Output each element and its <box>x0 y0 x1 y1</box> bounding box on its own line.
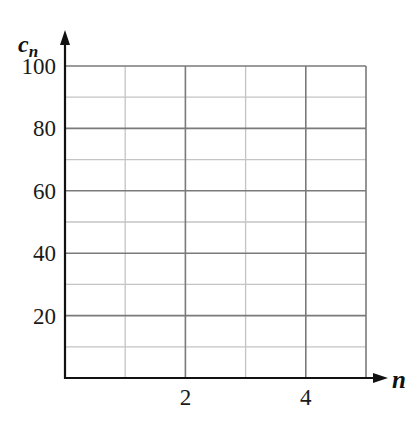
y-tick-label: 40 <box>33 241 56 266</box>
x-axis-arrow-icon <box>373 373 388 383</box>
x-tick-labels: 24 <box>180 385 312 410</box>
y-tick-label: 60 <box>33 179 56 204</box>
y-tick-label: 100 <box>22 54 57 79</box>
y-axis-label-sub: n <box>29 42 38 61</box>
grid-minor-lines <box>65 66 366 378</box>
x-tick-label: 2 <box>180 385 192 410</box>
x-tick-label: 4 <box>300 385 312 410</box>
y-axis-arrow-icon <box>60 30 70 45</box>
x-axis-label: n <box>392 366 406 393</box>
y-tick-label: 80 <box>33 116 56 141</box>
y-axis-label-main: c <box>18 31 29 57</box>
axes <box>60 30 388 383</box>
y-tick-labels: 20406080100 <box>22 54 57 329</box>
y-axis-label: cn <box>18 31 38 61</box>
y-tick-label: 20 <box>33 304 56 329</box>
chart: 20406080100 24 cn n <box>0 0 420 426</box>
